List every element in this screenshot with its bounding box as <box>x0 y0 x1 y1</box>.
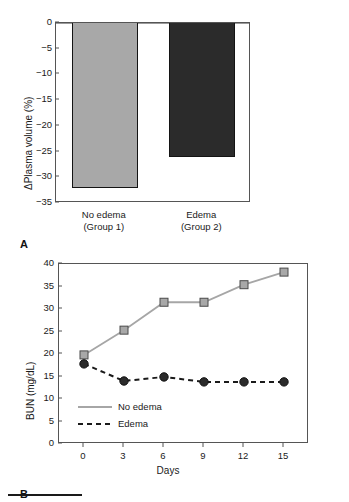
panel-a-y-tick-label: 0 <box>28 17 52 27</box>
panel-a-y-tick-label: −35 <box>28 197 52 207</box>
panel-a-y-tick-label: −25 <box>28 146 52 156</box>
panel-b-y-tick-mark <box>58 330 62 331</box>
panel-a-category-label-line: No edema <box>82 209 126 221</box>
panel-b-y-tick-label: 15 <box>30 371 54 381</box>
panel-a-plot-area <box>55 22 250 202</box>
panel-b-y-tick-mark <box>58 443 62 444</box>
panel-a-y-tick-mark <box>55 124 59 125</box>
figure-root: ΔPlasma volume (%) 0−5−10−15−20−25−30−35… <box>0 0 349 502</box>
panel-b-data-point <box>120 377 128 385</box>
panel-a-y-tick-label: −5 <box>28 43 52 53</box>
panel-a-y-tick-mark <box>55 73 59 74</box>
panel-b-data-point <box>120 326 128 334</box>
panel-b-y-tick-label: 25 <box>30 326 54 336</box>
panel-b-data-point <box>160 373 168 381</box>
panel-b-data-point <box>280 268 288 276</box>
panel-b-legend-item: Edema <box>78 419 148 429</box>
panel-a-category-label: Edema(Group 2) <box>181 209 222 233</box>
panel-b-legend-label: No edema <box>118 402 162 412</box>
panel-b-x-tick-mark <box>83 443 84 447</box>
panel-b-y-tick-mark <box>58 375 62 376</box>
panel-a-y-tick-label: −10 <box>28 69 52 79</box>
panel-b-y-tick-mark <box>58 308 62 309</box>
panel-b-legend-label: Edema <box>118 419 148 429</box>
panel-b-data-point <box>200 298 208 306</box>
panel-a-bar-chart: ΔPlasma volume (%) 0−5−10−15−20−25−30−35… <box>0 0 349 250</box>
panel-b-y-tick-mark <box>58 398 62 399</box>
panel-b-data-point <box>240 378 248 386</box>
panel-a-y-tick-mark <box>55 47 59 48</box>
panel-b-x-axis-title: Days <box>157 466 180 476</box>
panel-b-x-tick-label: 9 <box>200 451 205 461</box>
panel-b-data-point <box>240 281 248 289</box>
panel-a-letter: A <box>20 238 28 250</box>
bottom-divider-rule <box>8 494 82 496</box>
panel-b-y-tick-label: 40 <box>30 258 54 268</box>
panel-b-y-tick-label: 30 <box>30 303 54 313</box>
panel-b-data-point <box>200 378 208 386</box>
panel-a-bar <box>169 23 235 157</box>
panel-b-x-tick-label: 0 <box>80 451 85 461</box>
panel-b-y-tick-mark <box>58 263 62 264</box>
panel-a-y-tick-label: −15 <box>28 94 52 104</box>
panel-b-series-svg <box>59 264 309 444</box>
panel-a-y-tick-mark <box>55 176 59 177</box>
solid-line-icon <box>78 403 112 411</box>
panel-a-category-label: No edema(Group 1) <box>82 209 126 233</box>
panel-a-y-tick-mark <box>55 150 59 151</box>
panel-b-x-tick-mark <box>123 443 124 447</box>
panel-b-y-tick-mark <box>58 285 62 286</box>
dashed-line-icon <box>78 420 112 428</box>
panel-b-data-point <box>280 378 288 386</box>
panel-b-y-tick-mark <box>58 420 62 421</box>
panel-b-y-tick-label: 0 <box>30 438 54 448</box>
panel-b-series-line <box>84 272 284 355</box>
panel-a-bar <box>72 23 138 188</box>
panel-b-x-tick-mark <box>283 443 284 447</box>
panel-b-x-tick-label: 6 <box>160 451 165 461</box>
panel-b-x-tick-mark <box>163 443 164 447</box>
panel-b-line-chart: BUN (mg/dL) 0510152025303540 03691215 Da… <box>0 250 349 502</box>
panel-b-x-tick-label: 3 <box>120 451 125 461</box>
panel-b-data-point <box>80 360 88 368</box>
panel-b-x-tick-label: 15 <box>278 451 289 461</box>
panel-b-x-tick-mark <box>203 443 204 447</box>
panel-a-y-tick-label: −20 <box>28 120 52 130</box>
panel-b-y-tick-label: 20 <box>30 348 54 358</box>
panel-b-y-tick-label: 10 <box>30 393 54 403</box>
panel-b-y-tick-label: 5 <box>30 416 54 426</box>
panel-b-plot-area <box>58 263 308 443</box>
panel-b-data-point <box>160 298 168 306</box>
panel-b-legend-item: No edema <box>78 402 162 412</box>
panel-a-y-tick-mark <box>55 22 59 23</box>
panel-b-x-tick-mark <box>243 443 244 447</box>
panel-a-y-tick-label: −30 <box>28 172 52 182</box>
panel-b-data-point <box>80 351 88 359</box>
panel-b-x-tick-label: 12 <box>238 451 249 461</box>
panel-b-series-line <box>84 364 284 382</box>
panel-a-y-tick-mark <box>55 202 59 203</box>
panel-a-category-label-line: (Group 1) <box>82 221 126 233</box>
panel-b-y-tick-mark <box>58 353 62 354</box>
panel-b-y-tick-label: 35 <box>30 281 54 291</box>
panel-a-category-label-line: Edema <box>181 209 222 221</box>
panel-a-y-tick-mark <box>55 99 59 100</box>
panel-a-category-label-line: (Group 2) <box>181 221 222 233</box>
